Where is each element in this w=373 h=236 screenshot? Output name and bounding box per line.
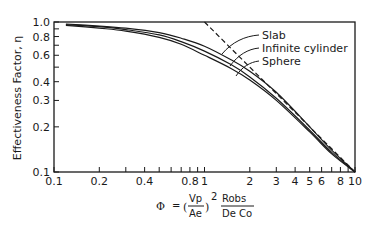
- y-axis: 0.10.20.30.40.60.81.0: [33, 16, 60, 179]
- x-tick-label: 1: [201, 175, 208, 188]
- effectiveness-factor-chart: 0.10.20.40.8123456810 0.10.20.30.40.60.8…: [0, 0, 373, 236]
- cylinder-leader: [230, 48, 259, 66]
- open-paren: (: [183, 201, 187, 214]
- close-paren: ): [205, 201, 209, 214]
- x-axis: 0.10.20.40.8123456810: [45, 167, 362, 188]
- x-tick-label: 0.2: [91, 175, 109, 188]
- x-tick-label: 0.8: [181, 175, 199, 188]
- series-label-leaders: [222, 35, 259, 76]
- series-label-cylinder: Infinite cylinder: [262, 42, 348, 55]
- x-tick-label: 4: [292, 175, 299, 188]
- y-tick-label: 0.1: [33, 166, 51, 179]
- y-tick-label: 0.2: [33, 121, 51, 134]
- x-tick-label: 6: [318, 175, 325, 188]
- series-label-sphere: Sphere: [262, 55, 301, 68]
- robs-term: Robs: [222, 193, 246, 204]
- y-tick-label: 0.6: [33, 49, 51, 62]
- vp-term: Vp: [189, 193, 202, 204]
- y-tick-label: 0.8: [33, 31, 51, 44]
- x-axis-formula: Φ = ( Vp Ae ) 2 Robs De Co: [156, 191, 254, 219]
- y-tick-label: 1.0: [33, 16, 51, 29]
- exponent: 2: [211, 191, 217, 202]
- series-label-slab: Slab: [262, 29, 286, 42]
- x-tick-label: 5: [306, 175, 313, 188]
- phi-symbol: Φ: [156, 200, 165, 213]
- y-axis-title: Effectiveness Factor, η: [11, 36, 24, 160]
- equals-sign: =: [172, 200, 180, 211]
- y-tick-label: 0.4: [33, 76, 51, 89]
- de-co-term: De Co: [222, 208, 252, 219]
- x-tick-label: 10: [348, 175, 362, 188]
- x-tick-label: 2: [246, 175, 253, 188]
- ae-term: Ae: [189, 208, 202, 219]
- x-tick-label: 0.4: [136, 175, 154, 188]
- x-tick-label: 3: [273, 175, 280, 188]
- x-tick-label: 8: [337, 175, 344, 188]
- y-tick-label: 0.3: [33, 94, 51, 107]
